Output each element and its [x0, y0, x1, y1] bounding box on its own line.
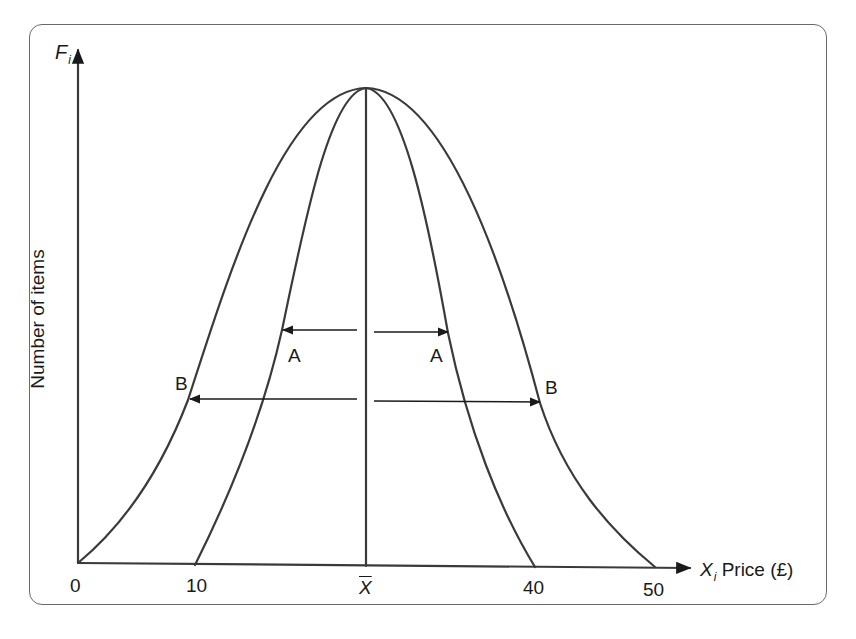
x-axis: [78, 563, 690, 568]
x-tick-mean: X: [359, 578, 372, 597]
x-axis-text: Price (£): [722, 559, 794, 580]
y-axis-symbol-sub: i: [68, 53, 71, 67]
x-axis-symbol: X: [700, 559, 713, 580]
x-tick-0: 0: [70, 576, 81, 595]
x-axis-label: Xi Price (£): [700, 560, 793, 579]
x-tick-10: 10: [186, 576, 207, 595]
distribution-diagram: [0, 0, 856, 639]
y-axis-label: Number of items: [27, 249, 49, 389]
label-a-right: A: [430, 346, 443, 365]
x-tick-50: 50: [643, 580, 664, 599]
arrow-b-right: [374, 401, 540, 402]
label-a-left: A: [288, 346, 301, 365]
label-b-left: B: [175, 374, 188, 393]
label-b-right: B: [545, 378, 558, 397]
y-axis-symbol: Fi: [55, 42, 71, 62]
y-axis-symbol-main: F: [55, 41, 67, 63]
x-tick-40: 40: [523, 578, 544, 597]
x-axis-symbol-sub: i: [714, 570, 717, 584]
